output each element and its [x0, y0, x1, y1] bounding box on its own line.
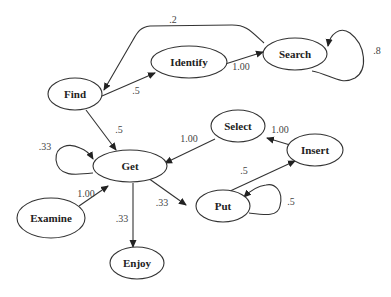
edge-find-identify [102, 73, 155, 96]
svg-text:Find: Find [64, 88, 86, 100]
node-insert: Insert [287, 134, 343, 166]
node-select: Select [211, 110, 265, 142]
edge-label-put-insert: .5 [240, 165, 248, 176]
svg-text:Select: Select [224, 120, 252, 132]
node-search: Search [263, 38, 327, 70]
edge-label-get-put: .33 [156, 197, 169, 208]
svg-text:Enjoy: Enjoy [123, 257, 152, 269]
edge-label-find-identify: .5 [132, 85, 140, 96]
svg-text:Search: Search [279, 48, 311, 60]
state-diagram: .2 .5 1.00 .8 .5 .33 1.00 1.00 .5 .5 .33… [0, 0, 391, 297]
edge-label-search-self: .8 [373, 45, 381, 56]
svg-text:Examine: Examine [30, 212, 72, 224]
node-put: Put [196, 190, 250, 222]
edge-find-get [86, 110, 116, 150]
edge-label-find-get: .5 [115, 124, 123, 135]
edge-label-get-enjoy: .33 [116, 213, 129, 224]
edge-label-examine-get: 1.00 [77, 188, 95, 199]
edge-label-select-get: 1.00 [180, 133, 198, 144]
edge-label-insert-select: 1.00 [271, 124, 289, 135]
edge-put-insert [228, 161, 295, 192]
svg-text:Identify: Identify [170, 56, 208, 68]
edge-label-identify-search: 1.00 [232, 61, 250, 72]
node-find: Find [48, 78, 102, 110]
svg-text:Put: Put [215, 200, 232, 212]
edge-label-put-self: .5 [287, 196, 295, 207]
svg-text:Insert: Insert [301, 144, 329, 156]
edge-insert-select [267, 138, 290, 145]
node-enjoy: Enjoy [110, 247, 164, 279]
node-get: Get [93, 150, 167, 182]
edge-label-search-find: .2 [169, 14, 177, 25]
node-examine: Examine [17, 198, 85, 238]
svg-text:Get: Get [121, 160, 138, 172]
edge-get-self [56, 146, 93, 175]
edge-label-get-self: .33 [39, 141, 52, 152]
node-identify: Identify [151, 46, 227, 78]
